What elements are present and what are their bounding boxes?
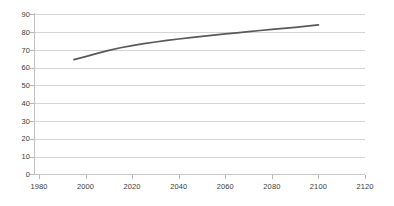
x-tick-label-2060: 2060 bbox=[205, 182, 245, 191]
y-tick-label-40: 40 bbox=[4, 99, 30, 108]
y-tick-90 bbox=[30, 14, 34, 15]
x-tick-2000 bbox=[86, 175, 87, 179]
gridline-40 bbox=[34, 103, 365, 104]
y-tick-label-10: 10 bbox=[4, 152, 30, 161]
y-tick-label-70: 70 bbox=[4, 46, 30, 55]
gridline-90 bbox=[34, 14, 365, 15]
x-tick-label-2020: 2020 bbox=[112, 182, 152, 191]
x-tick-label-2040: 2040 bbox=[159, 182, 199, 191]
y-tick-label-30: 30 bbox=[4, 117, 30, 126]
y-tick-label-0: 0 bbox=[4, 170, 30, 179]
gridline-10 bbox=[34, 157, 365, 158]
x-tick-label-2100: 2100 bbox=[298, 182, 338, 191]
y-tick-0 bbox=[30, 174, 34, 175]
x-tick-2120 bbox=[365, 175, 366, 179]
gridline-50 bbox=[34, 85, 365, 86]
gridline-60 bbox=[34, 68, 365, 69]
y-tick-label-90: 90 bbox=[4, 10, 30, 19]
y-tick-label-60: 60 bbox=[4, 63, 30, 72]
x-tick-2080 bbox=[272, 175, 273, 179]
x-tick-2060 bbox=[225, 175, 226, 179]
x-tick-label-2000: 2000 bbox=[66, 182, 106, 191]
y-tick-label-50: 50 bbox=[4, 81, 30, 90]
x-tick-label-2120: 2120 bbox=[345, 182, 385, 191]
x-tick-2100 bbox=[318, 175, 319, 179]
y-tick-60 bbox=[30, 68, 34, 69]
x-tick-1980 bbox=[39, 175, 40, 179]
gridline-30 bbox=[34, 121, 365, 122]
y-tick-80 bbox=[30, 32, 34, 33]
y-tick-30 bbox=[30, 121, 34, 122]
x-tick-label-2080: 2080 bbox=[252, 182, 292, 191]
gridline-0 bbox=[34, 174, 365, 175]
gridline-70 bbox=[34, 50, 365, 51]
plot-area bbox=[34, 12, 365, 176]
y-tick-50 bbox=[30, 85, 34, 86]
y-axis-line bbox=[34, 13, 35, 175]
gridline-20 bbox=[34, 139, 365, 140]
y-tick-70 bbox=[30, 50, 34, 51]
y-axis-labels: 90 80 70 60 50 40 30 20 10 0 bbox=[0, 0, 30, 206]
y-tick-40 bbox=[30, 103, 34, 104]
y-tick-10 bbox=[30, 157, 34, 158]
y-tick-label-20: 20 bbox=[4, 134, 30, 143]
line-chart: 90 80 70 60 50 40 30 20 10 0 1980 2000 2… bbox=[0, 0, 394, 206]
x-tick-2040 bbox=[179, 175, 180, 179]
x-tick-label-1980: 1980 bbox=[19, 182, 59, 191]
x-tick-2020 bbox=[132, 175, 133, 179]
gridline-80 bbox=[34, 32, 365, 33]
y-tick-label-80: 80 bbox=[4, 28, 30, 37]
y-tick-20 bbox=[30, 139, 34, 140]
